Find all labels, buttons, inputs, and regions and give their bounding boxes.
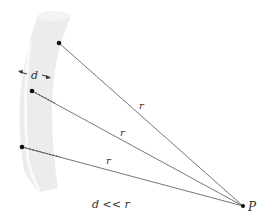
curved-wire — [19, 13, 70, 192]
wire-top-end — [38, 11, 70, 21]
distance-line-middle — [32, 91, 243, 206]
diagram-svg: d r r r P d << r — [0, 0, 273, 220]
source-dot-top — [57, 41, 62, 46]
point-p-label: P — [247, 200, 257, 214]
point-p-dot — [241, 204, 245, 208]
distance-label-bottom: r — [106, 155, 112, 166]
condition-label: d << r — [92, 198, 130, 211]
distance-label-top: r — [139, 100, 145, 111]
source-dot-middle — [30, 89, 35, 94]
diagram-canvas: d r r r P d << r — [0, 0, 273, 220]
distance-label-middle: r — [120, 127, 126, 138]
source-dot-bottom — [20, 145, 25, 150]
thickness-label: d — [31, 69, 38, 82]
